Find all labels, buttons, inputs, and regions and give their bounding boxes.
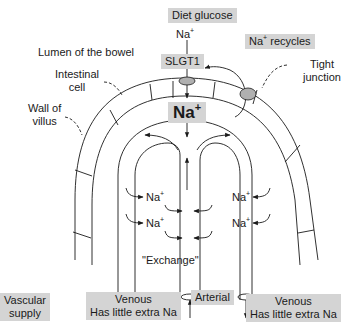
sodium-ion-label: Na+ [146, 191, 164, 204]
na-recycles-label: Na+ recycles [245, 34, 315, 49]
tight-junction-icon [240, 88, 256, 100]
sodium-ion-label: Na+ [232, 217, 250, 230]
na-entering-label: Na+ [176, 28, 194, 41]
slgt1-label: SLGT1 [161, 54, 204, 69]
venous-right-label: Venous Has little extra Na [246, 294, 341, 322]
sodium-ion-label: Na+ [146, 217, 164, 230]
intestinal-cell-label: Intestinal cell [55, 68, 99, 94]
slgt1-transporter-icon [179, 77, 195, 85]
vascular-supply-label: Vascular supply [0, 293, 50, 321]
tight-junction-label: Tight junction [303, 58, 341, 84]
wall-of-villus-label: Wall of villus [28, 102, 61, 128]
arterial-label: Arterial [191, 290, 234, 305]
venous-left-label: Venous Has little extra Na [86, 292, 181, 320]
villus-sodium-diagram: Diet glucose Na+ Na+ recycles SLGT1 Lume… [0, 0, 353, 325]
capillary-outer [118, 120, 252, 300]
sodium-intracellular-label: Na+ [168, 102, 206, 123]
lumen-label: Lumen of the bowel [38, 46, 134, 59]
diet-glucose-label: Diet glucose [168, 8, 237, 23]
exchange-label: "Exchange" [142, 254, 199, 267]
sodium-ion-label: Na+ [232, 191, 250, 204]
